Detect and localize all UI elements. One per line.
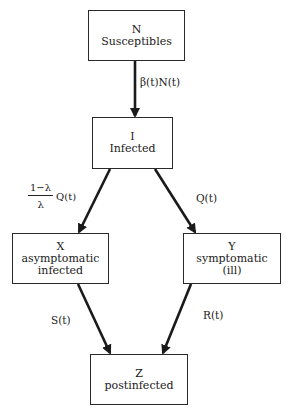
fraction-numerator: 1−λ (28, 182, 53, 196)
node-label-line1: asymptomatic (21, 253, 99, 265)
node-symbol: Z (135, 368, 143, 380)
edge-label-infection-rate: β(t)N(t) (140, 76, 180, 88)
node-postinfected: Z postinfected (90, 354, 188, 405)
node-symbol: X (57, 241, 65, 253)
edge-label-recovery-symptomatic: R(t) (203, 309, 223, 321)
node-asymptomatic-infected: X asymptomatic infected (12, 233, 109, 284)
node-label: Infected (109, 143, 155, 155)
node-label: Susceptibles (101, 36, 172, 48)
fraction-denominator: λ (37, 196, 43, 210)
node-label-line2: (ill) (222, 265, 241, 277)
fraction-suffix: Q(t) (56, 191, 76, 202)
arrow-i-to-y (155, 169, 195, 232)
node-symbol: Y (228, 241, 235, 253)
arrow-x-to-z (78, 284, 110, 353)
node-label-line2: infected (38, 265, 83, 277)
edge-label-asymptomatic-rate: 1−λ λ Q(t) (28, 182, 76, 210)
node-symbol: N (132, 24, 142, 36)
node-infected: I Infected (92, 117, 173, 169)
edge-label-recovery-asymptomatic: S(t) (51, 314, 71, 326)
edge-label-symptomatic-rate: Q(t) (196, 192, 217, 204)
arrow-y-to-z (163, 284, 191, 353)
node-label: postinfected (104, 380, 173, 392)
arrow-i-to-x (79, 169, 110, 232)
node-symptomatic-ill: Y symptomatic (ill) (183, 233, 281, 284)
node-label-line1: symptomatic (196, 253, 267, 265)
node-susceptibles: N Susceptibles (88, 10, 185, 61)
fraction: 1−λ λ (28, 182, 53, 210)
